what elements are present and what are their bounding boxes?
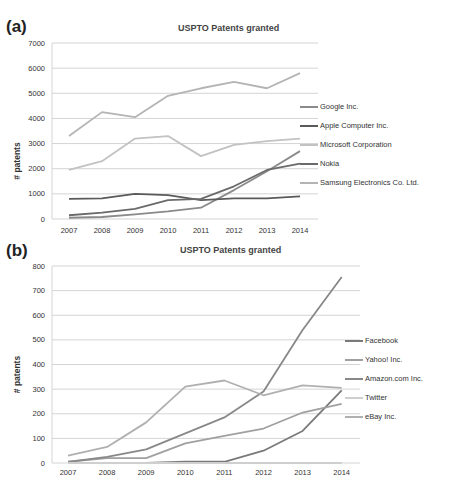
x-tick-label: 2011: [193, 226, 209, 235]
y-tick-label: 800: [32, 262, 45, 271]
series-line: [68, 381, 342, 456]
x-tick-label: 2009: [127, 226, 144, 235]
legend-label: Google Inc.: [320, 102, 358, 111]
y-tick-label: 400: [32, 360, 45, 369]
chart-b: 0100200300400500600700800200720082009201…: [12, 262, 360, 478]
legend-swatch: [300, 182, 318, 184]
x-tick-label: 2012: [255, 468, 272, 477]
y-tick-label: 3000: [28, 139, 45, 148]
x-tick-label: 2014: [333, 468, 350, 477]
x-tick-label: 2011: [216, 468, 232, 477]
x-tick-label: 2009: [138, 468, 155, 477]
y-tick-label: 4000: [28, 114, 45, 123]
y-tick-label: 7000: [28, 39, 45, 48]
x-tick-label: 2010: [160, 226, 177, 235]
legend-item: Samsung Electronics Co. Ltd.: [300, 173, 419, 192]
series-line: [69, 136, 300, 170]
legend-label: Yahoo! Inc.: [365, 355, 402, 364]
legend-swatch: [345, 340, 363, 342]
y-tick-label: 100: [32, 434, 45, 443]
y-tick-label: 0: [41, 459, 45, 468]
x-tick-label: 2007: [60, 468, 77, 477]
y-tick-label: 0: [41, 215, 45, 224]
x-tick-label: 2012: [226, 226, 243, 235]
legend-swatch: [345, 397, 363, 399]
legend-swatch: [300, 106, 318, 108]
legend-label: Samsung Electronics Co. Ltd.: [320, 178, 419, 187]
legend-label: Facebook: [365, 336, 398, 345]
x-tick-label: 2007: [61, 226, 78, 235]
legend-item: Nokia: [300, 154, 419, 173]
legend-swatch: [345, 359, 363, 361]
legend-b: FacebookYahoo! Inc.Amazon.com Inc.Twitte…: [345, 331, 423, 426]
y-tick-label: 600: [32, 311, 45, 320]
legend-item: Google Inc.: [300, 97, 419, 116]
y-axis-label: # patents: [12, 356, 22, 394]
legend-swatch: [345, 378, 363, 380]
y-tick-label: 700: [32, 286, 45, 295]
legend-label: Amazon.com Inc.: [365, 374, 423, 383]
series-line: [68, 277, 342, 462]
series-line: [69, 164, 300, 216]
legend-swatch: [300, 125, 318, 127]
x-tick-label: 2013: [294, 468, 311, 477]
legend-label: Nokia: [320, 159, 339, 168]
y-tick-label: 500: [32, 335, 45, 344]
x-tick-label: 2010: [177, 468, 194, 477]
legend-swatch: [300, 144, 318, 146]
chart-a: 0100020003000400050006000700020072008200…: [12, 39, 318, 236]
y-tick-label: 1000: [28, 189, 45, 198]
y-axis-label: # patents: [12, 142, 22, 180]
legend-item: Amazon.com Inc.: [345, 369, 423, 388]
y-tick-label: 6000: [28, 64, 45, 73]
legend-label: Microsoft Corporation: [320, 140, 392, 149]
legend-item: Apple Computer Inc.: [300, 116, 419, 135]
legend-item: Facebook: [345, 331, 423, 350]
legend-item: Twitter: [345, 388, 423, 407]
legend-item: eBay Inc.: [345, 407, 423, 426]
y-tick-label: 300: [32, 385, 45, 394]
legend-a: Google Inc.Apple Computer Inc.Microsoft …: [300, 97, 419, 192]
legend-swatch: [345, 416, 363, 418]
x-tick-label: 2013: [259, 226, 276, 235]
series-line: [69, 73, 300, 136]
legend-item: Yahoo! Inc.: [345, 350, 423, 369]
y-tick-label: 200: [32, 409, 45, 418]
x-tick-label: 2008: [99, 468, 116, 477]
x-tick-label: 2014: [292, 226, 309, 235]
legend-label: Twitter: [365, 393, 387, 402]
x-tick-label: 2008: [94, 226, 111, 235]
legend-label: eBay Inc.: [365, 412, 396, 421]
y-tick-label: 5000: [28, 89, 45, 98]
legend-item: Microsoft Corporation: [300, 135, 419, 154]
legend-swatch: [300, 163, 318, 165]
y-tick-label: 2000: [28, 164, 45, 173]
series-line: [68, 390, 342, 463]
legend-label: Apple Computer Inc.: [320, 121, 388, 130]
